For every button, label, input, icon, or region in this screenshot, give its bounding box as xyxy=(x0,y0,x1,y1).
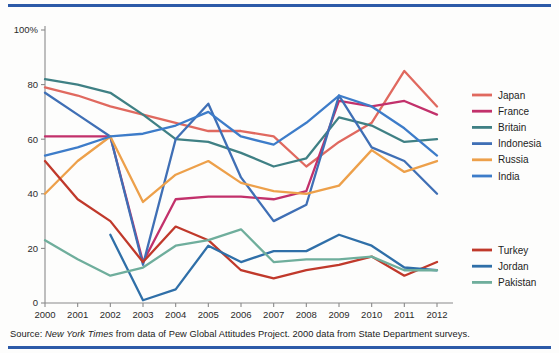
source-prefix: Source: xyxy=(10,329,42,339)
x-tick-label: 2004 xyxy=(165,309,186,320)
y-tick-label: 60 xyxy=(27,134,38,145)
x-tick-label: 2001 xyxy=(67,309,88,320)
legend-bottom-label-turkey: Turkey xyxy=(498,245,528,256)
chart-figure: 020406080100%200020012002200320042005200… xyxy=(0,0,559,353)
x-tick-label: 2011 xyxy=(394,309,414,320)
y-tick-label: 100% xyxy=(14,24,39,35)
y-tick-label: 20 xyxy=(27,243,38,254)
series-line-indonesia xyxy=(45,93,437,265)
x-tick-label: 2006 xyxy=(230,309,251,320)
y-tick-label: 0 xyxy=(33,297,38,308)
x-tick-label: 2003 xyxy=(132,309,153,320)
x-tick-label: 2012 xyxy=(426,309,447,320)
source-note: Source: New York Times from data of Pew … xyxy=(10,329,470,339)
legend-bottom-label-jordan: Jordan xyxy=(498,261,529,272)
plot-area: 020406080100%200020012002200320042005200… xyxy=(0,0,559,353)
x-tick-label: 2000 xyxy=(34,309,55,320)
x-tick-label: 2007 xyxy=(263,309,284,320)
source-rest: from data of Pew Global Attitudes Projec… xyxy=(116,329,470,339)
source-publication: New York Times xyxy=(45,329,113,339)
x-tick-label: 2010 xyxy=(361,309,382,320)
legend-top-label-britain: Britain xyxy=(498,122,526,133)
legend-top-label-russia: Russia xyxy=(498,154,529,165)
legend-top-label-india: India xyxy=(498,171,520,182)
legend-top-label-indonesia: Indonesia xyxy=(498,138,542,149)
x-tick-label: 2008 xyxy=(296,309,317,320)
x-tick-label: 2005 xyxy=(198,309,219,320)
series-line-russia xyxy=(45,136,437,202)
x-tick-label: 2002 xyxy=(100,309,121,320)
x-tick-label: 2009 xyxy=(328,309,349,320)
legend-bottom-label-pakistan: Pakistan xyxy=(498,277,536,288)
y-tick-label: 80 xyxy=(27,79,38,90)
legend-top-label-france: France xyxy=(498,106,530,117)
line-chart: 020406080100%200020012002200320042005200… xyxy=(0,0,559,353)
legend-top-label-japan: Japan xyxy=(498,90,525,101)
y-tick-label: 40 xyxy=(27,188,38,199)
